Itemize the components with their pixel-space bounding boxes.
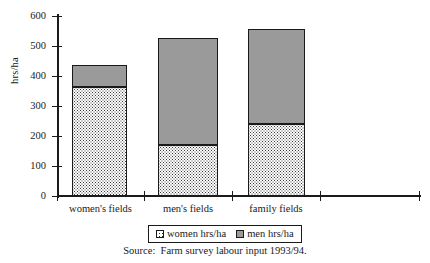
bar-segment-men-mens-fields[interactable] (158, 38, 218, 145)
x-category-label-mens-fields: men's fields (144, 203, 232, 215)
bar-group-mens-fields[interactable] (158, 38, 218, 196)
bar-segment-women-family-fields[interactable] (248, 124, 305, 196)
y-tick-label-300: 300 (6, 101, 46, 111)
legend-swatch-women-icon (156, 230, 164, 238)
bar-segment-men-family-fields[interactable] (248, 29, 305, 124)
bar-segment-women-mens-fields[interactable] (158, 145, 218, 196)
bar-segment-women-womens-fields[interactable] (72, 87, 127, 196)
chart-legend: women hrs/ha men hrs/ha (148, 225, 302, 243)
y-tick-label-600: 600 (6, 11, 46, 21)
legend-label-men: men hrs/ha (247, 228, 293, 239)
y-tick-label-400: 400 (6, 71, 46, 81)
bar-group-womens-fields[interactable] (72, 65, 127, 196)
source-caption: Source: Farm survey labour input 1993/94… (0, 245, 430, 257)
y-tick-label-200: 200 (6, 131, 46, 141)
x-category-label-family-fields: family fields (232, 203, 320, 215)
legend-label-women: women hrs/ha (167, 228, 226, 239)
legend-entry-women[interactable]: women hrs/ha (156, 228, 226, 239)
legend-swatch-men-icon (236, 230, 244, 238)
x-category-label-womens-fields: women's fields (57, 203, 144, 215)
legend-entry-men[interactable]: men hrs/ha (236, 228, 293, 239)
y-tick-label-0: 0 (6, 191, 46, 201)
bar-segment-men-womens-fields[interactable] (72, 65, 127, 87)
y-tick-label-500: 500 (6, 41, 46, 51)
stacked-bar-chart-figure: hrs/ha 600 500 400 300 200 100 0 (0, 0, 430, 263)
bar-group-family-fields[interactable] (248, 29, 305, 196)
plot-area (57, 16, 420, 196)
y-tick-label-100: 100 (6, 161, 46, 171)
